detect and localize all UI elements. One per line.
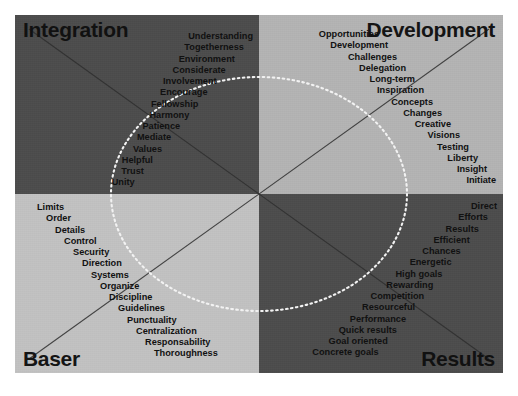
quadrant-word: Delegation (259, 63, 503, 74)
quadrant-word: Organize (15, 281, 259, 292)
quadrant-word: Punctuality (15, 315, 259, 326)
quadrant-word: Creative (259, 119, 503, 130)
quadrant-word: Guidelines (15, 303, 259, 314)
quadrant-word: Mediate (15, 132, 259, 143)
wordlist-wrap-baser: LimitsOrderDetailsControlSecurityDirecti… (15, 194, 259, 373)
quadrant-word: Initiate (259, 175, 503, 186)
quadrant-word: Energetic (259, 257, 503, 268)
wordlist-integration: UnderstandingTogethernessEnvironmentCons… (15, 31, 259, 189)
quadrant-word: Security (15, 247, 259, 258)
quadrant-word: Discipline (15, 292, 259, 303)
quadrant-word: Opportunities (259, 29, 503, 40)
quadrant-word: Responsability (15, 337, 259, 348)
quadrant-word: Resourceful (259, 302, 503, 313)
quadrant-word: Encourage (15, 87, 259, 98)
quadrant-word: Goal oriented (259, 336, 503, 347)
quadrant-word: High goals (259, 269, 503, 280)
quadrant-word: Thoroughness (15, 348, 259, 359)
quadrant-word: Chances (259, 246, 503, 257)
quadrant-word: Quick results (259, 325, 503, 336)
quadrant-word: Order (15, 213, 259, 224)
quadrant-word: Harmony (15, 110, 259, 121)
quadrant-word: Understanding (15, 31, 259, 42)
wordlist-development: OpportunitiesDevelopmentChallengesDelega… (259, 29, 503, 187)
quadrant-word: Concrete goals (259, 347, 503, 358)
quadrant-word: Long-term (259, 74, 503, 85)
quadrant-word: Performance (259, 314, 503, 325)
quadrant-word: Insight (259, 164, 503, 175)
quadrant-word: Direct (259, 201, 503, 212)
wordlist-wrap-development: OpportunitiesDevelopmentChallengesDelega… (259, 15, 503, 194)
quadrant-word: Efforts (259, 212, 503, 223)
quadrant-word: Limits (15, 202, 259, 213)
quadrant-word: Centralization (15, 326, 259, 337)
quadrant-word: Togetherness (15, 42, 259, 53)
quadrant-word: Unity (15, 177, 259, 188)
quadrant-word: Inspiration (259, 85, 503, 96)
quadrant-word: Rewarding (259, 280, 503, 291)
quadrant-model-page: Integration Development Baser Results Un… (0, 0, 518, 396)
quadrant-word: Challenges (259, 52, 503, 63)
quadrant-word: Trust (15, 166, 259, 177)
quadrant-word: Testing (259, 142, 503, 153)
quadrant-word: Details (15, 225, 259, 236)
quadrant-word: Competition (259, 291, 503, 302)
quadrant-word: Concepts (259, 97, 503, 108)
quadrant-word: Environment (15, 54, 259, 65)
wordlist-results: DirectEffortsResultsEfficientChancesEner… (259, 201, 503, 359)
quadrant-word: Systems (15, 270, 259, 281)
quadrant-word: Liberty (259, 153, 503, 164)
wordlist-wrap-integration: UnderstandingTogethernessEnvironmentCons… (15, 15, 259, 194)
quadrant-word: Values (15, 144, 259, 155)
quadrant-word: Control (15, 236, 259, 247)
quadrant-word: Direction (15, 258, 259, 269)
quadrant-word: Helpful (15, 155, 259, 166)
quadrant-word: Involvement (15, 76, 259, 87)
quadrant-word: Patience (15, 121, 259, 132)
wordlist-baser: LimitsOrderDetailsControlSecurityDirecti… (15, 202, 259, 360)
quadrant-word: Efficient (259, 235, 503, 246)
quadrant-word: Development (259, 40, 503, 51)
quadrant-word: Visions (259, 130, 503, 141)
quadrant-word: Considerate (15, 65, 259, 76)
quadrant-word: Fellowship (15, 99, 259, 110)
quadrant-board: Integration Development Baser Results Un… (15, 15, 503, 373)
wordlist-wrap-results: DirectEffortsResultsEfficientChancesEner… (259, 194, 503, 373)
quadrant-word: Results (259, 224, 503, 235)
quadrant-word: Changes (259, 108, 503, 119)
